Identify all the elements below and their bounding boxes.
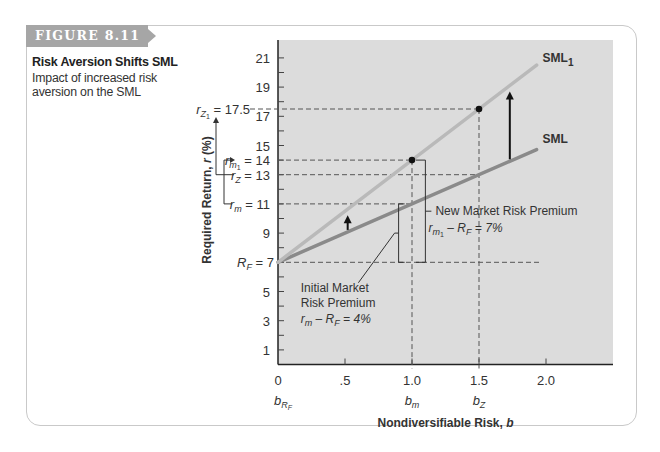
b-rf-label: bRF bbox=[274, 393, 293, 411]
x-tick-label: .5 bbox=[340, 373, 351, 388]
y-tick-label: 15 bbox=[256, 139, 270, 154]
new-premium-title: New Market Risk Premium bbox=[435, 204, 577, 218]
y-tick-label: 1 bbox=[263, 343, 270, 358]
y-tick-label: 19 bbox=[256, 80, 270, 95]
sml-label: SML bbox=[543, 132, 568, 146]
initial-premium-line2: Risk Premium bbox=[301, 296, 376, 310]
y-tick-label: 5 bbox=[263, 285, 270, 300]
b-z-label: bZ bbox=[473, 393, 486, 410]
rm-label: rm = 11 bbox=[230, 197, 270, 214]
x-tick-label: 0 bbox=[274, 373, 281, 388]
x-tick-label: 1.5 bbox=[470, 373, 488, 388]
rz1-label: rZ1 = 17.5 bbox=[196, 102, 250, 120]
sml-chart: 1359151719210.51.01.52.0SML1SMLNew Marke… bbox=[0, 0, 660, 452]
y-tick-label: 17 bbox=[256, 109, 270, 124]
data-point bbox=[409, 157, 416, 164]
initial-premium-line1: Initial Market bbox=[301, 281, 370, 295]
y-tick-label: 9 bbox=[263, 226, 270, 241]
x-tick-label: 1.0 bbox=[403, 373, 421, 388]
data-point bbox=[476, 106, 483, 113]
rz-to-rz1-arrowhead bbox=[213, 117, 219, 123]
y-tick-label: 21 bbox=[256, 51, 270, 66]
y-axis-title: Required Return, r (%) bbox=[200, 136, 214, 263]
b-m-label: bm bbox=[405, 393, 420, 410]
x-axis-title: Nondiversifiable Risk, b bbox=[377, 416, 513, 430]
x-tick-label: 2.0 bbox=[537, 373, 555, 388]
rf-label: RF = 7 bbox=[237, 255, 274, 272]
y-tick-label: 3 bbox=[263, 314, 270, 329]
